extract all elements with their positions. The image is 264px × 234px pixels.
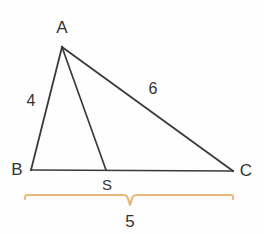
vertex-label-C: C [240,162,252,179]
geometry-figure: A B C S 4 6 5 [0,0,264,234]
segment-AS-cevian [62,47,106,170]
segment-length-label-AC: 6 [149,81,158,97]
vertex-label-A: A [56,19,67,36]
vertex-point-S [105,169,107,171]
segment-length-label-AB: 4 [27,93,36,109]
segment-AC [62,47,233,171]
point-label-S: S [102,177,112,192]
vertex-point-A [61,46,63,48]
triangle-diagram-canvas [0,0,264,234]
measurement-brace [25,195,233,205]
segment-BC [31,170,233,171]
vertex-point-C [232,170,234,172]
segment-AB [31,47,62,170]
brace-length-label: 5 [125,213,134,230]
vertex-point-B [30,169,32,171]
vertex-label-B: B [11,161,22,178]
